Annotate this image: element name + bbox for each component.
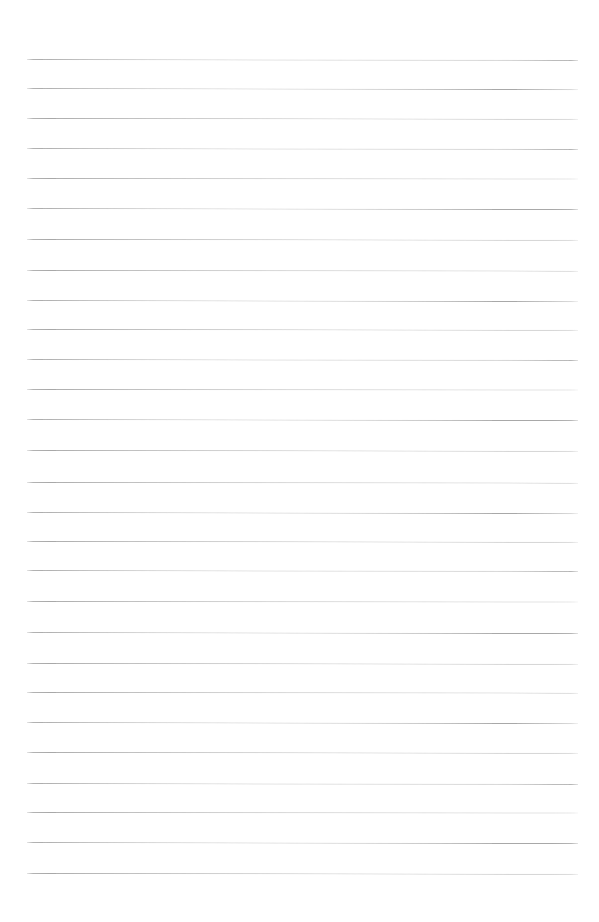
ruled-line <box>27 88 578 90</box>
ruled-line <box>27 632 578 634</box>
ruled-line <box>27 541 578 543</box>
ruled-line <box>27 842 578 844</box>
ruled-line <box>27 419 578 421</box>
lined-paper-page <box>0 0 599 922</box>
ruled-line <box>27 663 578 665</box>
ruled-line <box>27 570 578 572</box>
ruled-line <box>27 450 578 452</box>
ruled-line <box>27 482 578 484</box>
ruled-line <box>27 752 578 754</box>
ruled-line <box>27 148 578 150</box>
ruled-line <box>27 239 578 241</box>
ruled-line <box>27 329 578 331</box>
ruled-line <box>27 118 578 120</box>
ruled-line <box>27 208 578 210</box>
ruled-line <box>27 512 578 514</box>
ruled-line <box>27 178 578 180</box>
ruled-line <box>27 59 578 61</box>
ruled-line <box>27 389 578 391</box>
ruled-line <box>27 873 578 875</box>
ruled-line <box>27 722 578 724</box>
ruled-line <box>27 783 578 785</box>
ruled-line <box>27 359 578 361</box>
ruled-line <box>27 692 578 694</box>
ruled-line <box>27 300 578 302</box>
ruled-line <box>27 812 578 814</box>
ruled-line <box>27 270 578 272</box>
ruled-line <box>27 601 578 603</box>
ruled-line-layer <box>0 0 599 922</box>
